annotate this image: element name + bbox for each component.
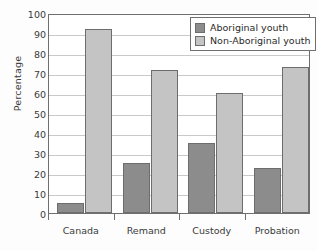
y-axis-tick-label: 40 — [20, 129, 46, 140]
y-axis-tick-label: 60 — [20, 89, 46, 100]
bar — [57, 203, 84, 213]
legend-item: Non-Aboriginal youth — [195, 34, 310, 47]
x-axis-tick — [114, 214, 115, 220]
x-axis-tick — [48, 214, 49, 220]
bar — [151, 70, 178, 213]
bar — [85, 29, 112, 213]
bar-chart-figure: Percentage 0102030405060708090100 Canada… — [0, 0, 318, 251]
x-axis-tick-label: Probation — [234, 225, 318, 236]
y-axis-tick-label: 50 — [20, 109, 46, 120]
bar-group — [115, 15, 181, 213]
legend-label: Aboriginal youth — [210, 22, 288, 33]
y-axis-tick-label: 20 — [20, 169, 46, 180]
bar — [254, 168, 281, 213]
bar-group — [49, 15, 115, 213]
y-axis-tick-label: 30 — [20, 149, 46, 160]
y-axis-tick-label: 100 — [20, 9, 46, 20]
x-axis-tick — [179, 214, 180, 220]
y-axis-tick-label: 0 — [20, 209, 46, 220]
legend-item: Aboriginal youth — [195, 21, 310, 34]
legend-label: Non-Aboriginal youth — [210, 35, 310, 46]
y-axis-tick-label: 70 — [20, 69, 46, 80]
bar — [282, 67, 309, 213]
y-axis-tick-label: 80 — [20, 49, 46, 60]
y-axis-title: Percentage — [12, 29, 23, 139]
bar — [188, 143, 215, 213]
x-axis-tick — [245, 214, 246, 220]
y-axis-tick-label: 90 — [20, 29, 46, 40]
y-axis-tick-label: 10 — [20, 189, 46, 200]
bar — [216, 93, 243, 213]
bar — [123, 163, 150, 213]
legend-swatch-icon — [195, 23, 205, 33]
legend-swatch-icon — [195, 36, 205, 46]
chart-legend: Aboriginal youthNon-Aboriginal youth — [190, 17, 316, 51]
